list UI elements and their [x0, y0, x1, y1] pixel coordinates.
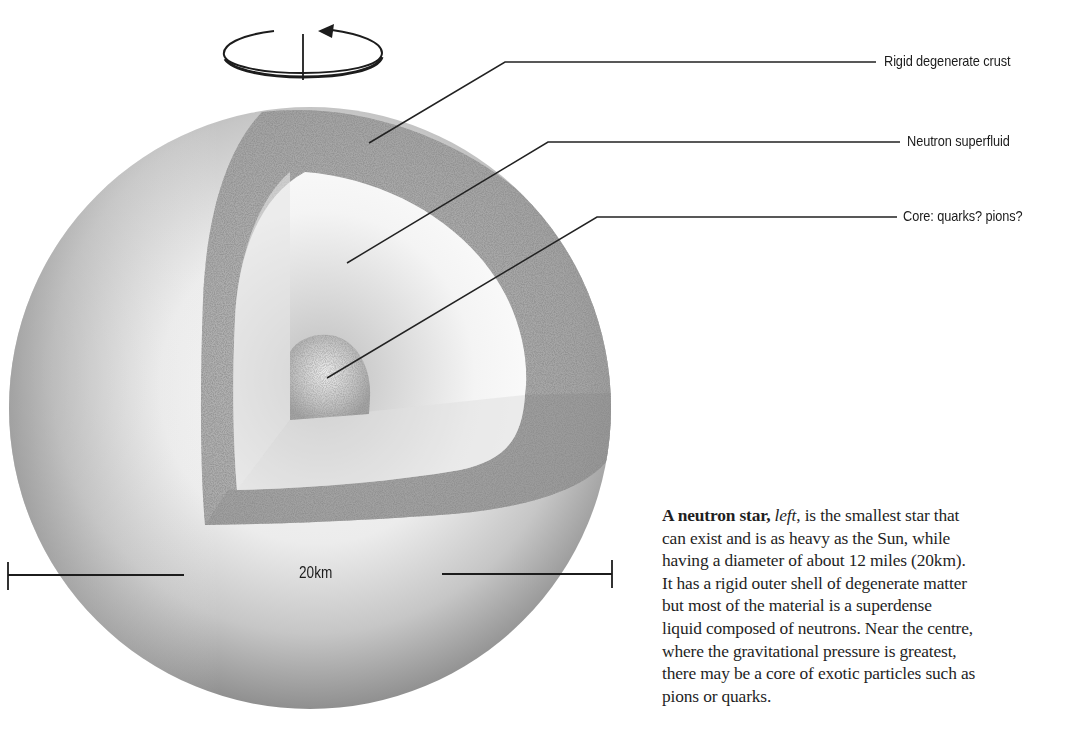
caption-line-5: but most of the material is a superdense	[662, 594, 1077, 617]
caption-line-6: liquid composed of neutrons. Near the ce…	[662, 617, 1077, 640]
rotation-arrow-icon	[224, 24, 382, 80]
caption-italic-word: left	[775, 505, 797, 525]
label-core: Core: quarks? pions?	[903, 208, 1023, 224]
caption-line-3: having a diameter of about 12 miles (20k…	[662, 549, 1077, 572]
caption-line-9: pions or quarks.	[662, 685, 1077, 708]
caption-line-1-rest: , is the smallest star that	[796, 505, 959, 525]
scale-bar-label: 20km	[299, 564, 332, 582]
leader-line-crust	[369, 62, 876, 143]
figure-caption: A neutron star, left, is the smallest st…	[662, 504, 1077, 707]
caption-bold-lead: A neutron star,	[662, 505, 770, 525]
caption-line-1: A neutron star, left, is the smallest st…	[662, 504, 1077, 527]
caption-line-8: there may be a core of exotic particles …	[662, 662, 1077, 685]
caption-line-4: It has a rigid outer shell of degenerate…	[662, 572, 1077, 595]
label-rigid-degenerate-crust: Rigid degenerate crust	[884, 53, 1010, 69]
caption-line-2: can exist and is as heavy as the Sun, wh…	[662, 527, 1077, 550]
label-neutron-superfluid: Neutron superfluid	[907, 133, 1010, 149]
caption-line-7: where the gravitational pressure is grea…	[662, 640, 1077, 663]
